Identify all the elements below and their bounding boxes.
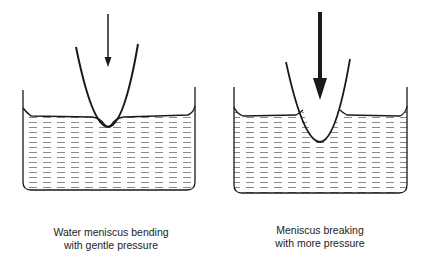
caption-more-pressure: Meniscus breaking with more pressure <box>230 224 410 250</box>
panel-gentle-pressure <box>23 14 195 190</box>
caption-line-1: Meniscus breaking <box>230 224 410 237</box>
meniscus-surface-left <box>234 107 303 116</box>
thick-arrow-icon <box>313 12 327 100</box>
panel-more-pressure <box>234 12 407 193</box>
probe-tip <box>76 44 138 127</box>
caption-line-2: with more pressure <box>230 237 410 250</box>
meniscus-surface-right <box>340 106 407 116</box>
thin-arrow-icon <box>105 14 112 67</box>
caption-line-2: with gentle pressure <box>21 239 201 252</box>
water-body <box>234 106 407 193</box>
water-body <box>23 106 195 190</box>
caption-gentle-pressure: Water meniscus bending with gentle press… <box>21 226 201 252</box>
meniscus-diagram <box>0 0 428 261</box>
caption-line-1: Water meniscus bending <box>21 226 201 239</box>
